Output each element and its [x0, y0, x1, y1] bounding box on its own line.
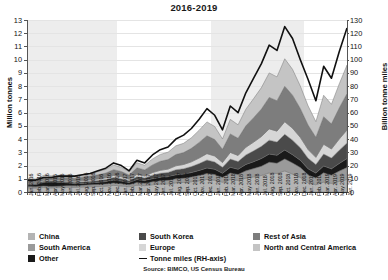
legend-swatch-icon [253, 233, 260, 240]
legend-swatch-icon [139, 244, 146, 251]
y-tick-left-3: 3 [0, 149, 22, 156]
x-axis-ticks: Jan. 2016Feb. 2016Mar. 2016Apr. 2016May … [27, 193, 346, 233]
legend-line-icon [139, 258, 147, 259]
legend-swatch-icon [139, 233, 146, 240]
y-tick-left-9: 9 [0, 69, 22, 76]
legend-label: South America [39, 243, 90, 252]
legend-item-north-and-central-america[interactable]: North and Central America [253, 242, 356, 253]
y-tick-right-10: 10 [350, 175, 376, 182]
legend-column-2: South KoreaEuropeTonne miles (RH-axis) [139, 231, 226, 264]
plot-area [27, 20, 348, 193]
legend-item-south-america[interactable]: South America [28, 242, 90, 253]
y-axis-label-right: Billion tonne miles [380, 61, 388, 133]
y-tick-right-90: 90 [350, 69, 376, 76]
y-tick-right-100: 100 [350, 56, 376, 63]
legend-column-3: Rest of AsiaNorth and Central America [253, 231, 356, 253]
legend-label: Rest of Asia [264, 232, 306, 241]
legend-label: Europe [150, 243, 175, 252]
y-tick-left-11: 11 [0, 43, 22, 50]
y-tick-left-10: 10 [0, 56, 22, 63]
y-tick-right-40: 40 [350, 136, 376, 143]
y-tick-left-12: 12 [0, 30, 22, 37]
y-tick-left-6: 6 [0, 109, 22, 116]
legend-swatch-icon [28, 233, 35, 240]
legend-item-tonne-miles-rh-axis-[interactable]: Tonne miles (RH-axis) [139, 253, 226, 264]
legend-item-europe[interactable]: Europe [139, 242, 226, 253]
y-tick-right-70: 70 [350, 96, 376, 103]
legend-item-rest-of-asia[interactable]: Rest of Asia [253, 231, 356, 242]
y-tick-right-110: 110 [350, 43, 376, 50]
y-tick-right-0: 0 [350, 189, 376, 196]
y-tick-right-120: 120 [350, 30, 376, 37]
legend-swatch-icon [28, 244, 35, 251]
y-tick-right-80: 80 [350, 83, 376, 90]
series-layers [28, 20, 347, 192]
y-tick-left-7: 7 [0, 96, 22, 103]
source-note: Source: BIMCO, US Census Bureau [0, 266, 388, 272]
legend-item-china[interactable]: China [28, 231, 90, 242]
legend-column-1: ChinaSouth AmericaOther [28, 231, 90, 264]
chart-figure: 2016-2019 Million tonnes Billion tonne m… [0, 0, 388, 280]
y-tick-left-13: 13 [0, 17, 22, 24]
legend-label: Other [39, 254, 58, 263]
page-title: 2016-2019 [0, 2, 388, 13]
y-tick-right-50: 50 [350, 122, 376, 129]
y-tick-left-8: 8 [0, 83, 22, 90]
legend-swatch-icon [253, 244, 260, 251]
legend-item-other[interactable]: Other [28, 253, 90, 264]
y-tick-right-130: 130 [350, 17, 376, 24]
y-tick-left-4: 4 [0, 136, 22, 143]
y-tick-right-20: 20 [350, 162, 376, 169]
legend-label: Tonne miles (RH-axis) [150, 254, 226, 263]
legend-label: China [39, 232, 59, 241]
y-tick-left-1: 1 [0, 175, 22, 182]
y-tick-left-0: 0 [0, 189, 22, 196]
chart-legend: ChinaSouth AmericaOther South KoreaEurop… [0, 231, 388, 265]
y-tick-right-30: 30 [350, 149, 376, 156]
legend-swatch-icon [28, 255, 35, 262]
y-tick-left-5: 5 [0, 122, 22, 129]
x-tick-label-41: Jun. 2019 [348, 174, 354, 196]
y-tick-left-2: 2 [0, 162, 22, 169]
legend-label: South Korea [150, 232, 193, 241]
legend-item-south-korea[interactable]: South Korea [139, 231, 226, 242]
legend-label: North and Central America [264, 243, 356, 252]
y-tick-right-60: 60 [350, 109, 376, 116]
